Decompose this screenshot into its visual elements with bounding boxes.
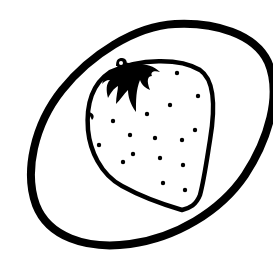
seed-dot-icon bbox=[145, 112, 149, 116]
seed-dot-icon bbox=[175, 71, 179, 75]
seed-dot-icon bbox=[196, 94, 200, 98]
seed-dot-icon bbox=[121, 160, 125, 164]
seed-dot-icon bbox=[158, 156, 162, 160]
seed-dot-icon bbox=[181, 163, 185, 167]
seed-dot-icon bbox=[193, 128, 197, 132]
seed-dot-icon bbox=[161, 181, 165, 185]
seed-dot-icon bbox=[97, 143, 101, 147]
seed-dot-icon bbox=[131, 152, 135, 156]
seed-dot-icon bbox=[153, 136, 157, 140]
seed-dot-icon bbox=[168, 103, 172, 107]
strawberry-icon bbox=[88, 58, 213, 210]
seed-dot-icon bbox=[111, 119, 115, 123]
seed-dot-icon bbox=[128, 133, 132, 137]
illustration-canvas: Strawberry on a plate bbox=[0, 0, 273, 272]
strawberry-plate-icon bbox=[0, 0, 273, 272]
seed-dot-icon bbox=[183, 188, 187, 192]
seed-dot-icon bbox=[180, 138, 184, 142]
